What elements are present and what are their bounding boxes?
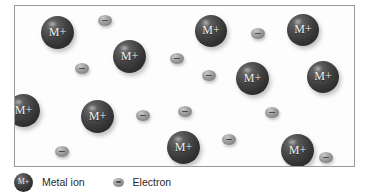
electron-particle: [251, 28, 265, 39]
electron-minus-sign: [116, 181, 121, 183]
electron-particle: [222, 134, 236, 145]
metal-ion-sphere: M+: [14, 94, 40, 127]
electron-minus-sign: [226, 139, 232, 141]
legend-ion-label: M+: [18, 178, 30, 186]
metal-ion-label: M+: [15, 104, 32, 116]
electron-particle: [178, 106, 192, 117]
electron-particle: [55, 146, 69, 157]
legend-item-electron: Electron: [113, 176, 172, 188]
diagram-stage: M+M+M+M+M+M+M+M+M+M+ M+ Metal ion Electr…: [0, 0, 367, 195]
electron-particle: [98, 15, 112, 26]
metallic-bonding-diagram: M+M+M+M+M+M+M+M+M+M+: [14, 5, 355, 167]
electron-ellipse-icon: [113, 178, 124, 187]
metal-ion-label: M+: [202, 24, 219, 36]
metal-ion-sphere-icon: M+: [14, 173, 33, 192]
metal-ion-label: M+: [89, 110, 106, 122]
metal-ion-sphere: M+: [236, 62, 269, 95]
metal-ion-label: M+: [121, 50, 138, 62]
metal-ion-label: M+: [244, 72, 261, 84]
legend-label-metal-ion: Metal ion: [42, 176, 85, 188]
legend: M+ Metal ion Electron: [14, 172, 171, 192]
electron-minus-sign: [182, 111, 188, 113]
electron-particle: [265, 107, 279, 118]
legend-label-electron: Electron: [133, 176, 172, 188]
metal-ion-sphere: M+: [81, 100, 114, 133]
electron-particle: [319, 152, 333, 163]
metal-ion-sphere: M+: [307, 61, 339, 93]
electron-minus-sign: [59, 151, 65, 153]
electron-minus-sign: [255, 33, 261, 35]
electron-minus-sign: [206, 75, 212, 77]
electron-particle: [170, 53, 184, 64]
metal-ion-sphere: M+: [195, 15, 227, 47]
metal-ion-label: M+: [314, 70, 331, 82]
electron-minus-sign: [102, 20, 108, 22]
metal-ion-label: M+: [289, 144, 306, 156]
electron-minus-sign: [323, 157, 329, 159]
metal-ion-label: M+: [49, 26, 66, 38]
electron-minus-sign: [269, 112, 275, 114]
electron-particle: [202, 70, 216, 81]
metal-ion-sphere: M+: [281, 134, 314, 167]
metal-ion-sphere: M+: [41, 16, 74, 49]
electron-minus-sign: [79, 68, 85, 70]
electron-particle: [136, 110, 150, 121]
metal-ion-label: M+: [294, 23, 311, 35]
metal-ion-sphere: M+: [287, 14, 319, 46]
legend-item-metal-ion: M+ Metal ion: [14, 173, 85, 192]
metal-ion-sphere: M+: [113, 40, 146, 73]
electron-particle: [75, 63, 89, 74]
metal-ion-sphere: M+: [167, 131, 200, 164]
electron-minus-sign: [140, 115, 146, 117]
metal-ion-label: M+: [175, 141, 192, 153]
electron-minus-sign: [174, 58, 180, 60]
